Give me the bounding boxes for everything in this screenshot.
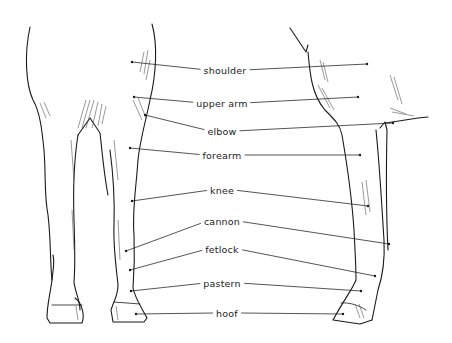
label-fetlock: fetlock bbox=[202, 244, 242, 255]
horse-leg-diagram bbox=[0, 0, 452, 343]
label-hoof: hoof bbox=[213, 308, 241, 319]
side-view-leg bbox=[290, 28, 428, 324]
label-pastern: pastern bbox=[200, 278, 244, 289]
label-cannon: cannon bbox=[201, 216, 243, 227]
label-forearm: forearm bbox=[200, 150, 245, 161]
front-view-legs bbox=[26, 24, 155, 323]
leader-lines bbox=[125, 61, 394, 315]
label-shoulder: shoulder bbox=[201, 65, 250, 76]
label-upper-arm: upper arm bbox=[193, 98, 250, 109]
label-elbow: elbow bbox=[204, 126, 239, 137]
label-knee: knee bbox=[207, 185, 237, 196]
